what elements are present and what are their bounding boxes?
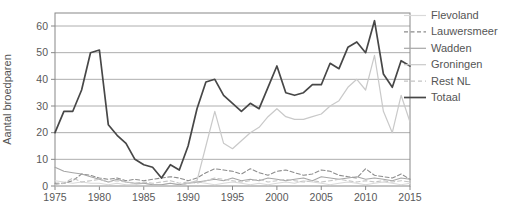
legend-label-wadden: Wadden — [431, 42, 472, 54]
y-tick-label-10: 10 — [36, 153, 48, 165]
breeding-pairs-line-chart-figure: 0102030405060197519801985199019952000200… — [0, 0, 517, 215]
y-tick-label-20: 20 — [36, 126, 48, 138]
legend-label-groningen: Groningen — [431, 58, 482, 70]
y-axis-title: Aantal broedparen — [1, 54, 13, 145]
legend-label-totaal: Totaal — [431, 91, 460, 103]
legend-label-lauwersmeer: Lauwersmeer — [431, 25, 498, 37]
y-tick-label-0: 0 — [42, 180, 48, 192]
legend-label-rest-nl: Rest NL — [431, 75, 471, 87]
line-chart: 0102030405060197519801985199019952000200… — [0, 0, 517, 215]
series-line-totaal — [55, 21, 410, 178]
y-tick-label-40: 40 — [36, 73, 48, 85]
x-tick-label-2010: 2010 — [354, 191, 378, 203]
x-tick-label-1995: 1995 — [221, 191, 245, 203]
series-line-flevoland — [55, 181, 410, 185]
x-tick-label-1985: 1985 — [132, 191, 156, 203]
y-tick-label-50: 50 — [36, 46, 48, 58]
x-tick-label-1980: 1980 — [88, 191, 112, 203]
x-tick-label-2000: 2000 — [265, 191, 289, 203]
legend-label-flevoland: Flevoland — [431, 9, 479, 21]
y-tick-label-30: 30 — [36, 100, 48, 112]
plot-frame — [55, 13, 410, 186]
x-tick-label-2015: 2015 — [398, 191, 422, 203]
x-tick-label-2005: 2005 — [310, 191, 334, 203]
y-tick-label-60: 60 — [36, 20, 48, 32]
x-tick-label-1975: 1975 — [43, 191, 67, 203]
x-tick-label-1990: 1990 — [176, 191, 200, 203]
